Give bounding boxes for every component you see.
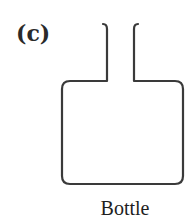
bottle-diagram — [0, 0, 190, 220]
bottle-outline — [62, 24, 183, 184]
figure-caption: Bottle — [0, 198, 190, 218]
